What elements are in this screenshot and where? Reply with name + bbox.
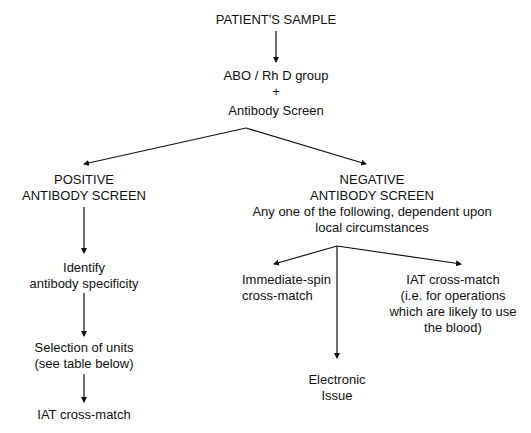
- node-text: POSITIVE: [4, 172, 164, 188]
- node-patient-sample: PATIENT'S SAMPLE: [196, 12, 356, 28]
- node-selection-of-units: Selection of units (see table below): [14, 340, 154, 372]
- node-text: +: [186, 84, 366, 100]
- node-immediate-spin-cross-match: Immediate-spin cross-match: [242, 272, 352, 304]
- node-text: (see table below): [14, 356, 154, 372]
- node-text: ANTIBODY SCREEN: [4, 188, 164, 204]
- node-text: Issue: [297, 388, 377, 404]
- node-text: which are likely to use: [378, 304, 528, 320]
- node-text: the blood): [378, 320, 528, 336]
- node-text: antibody specificity: [14, 276, 154, 292]
- node-text: cross-match: [242, 288, 352, 304]
- node-negative-antibody-screen: NEGATIVE ANTIBODY SCREEN Any one of the …: [238, 172, 506, 236]
- node-abo-rhd-antibody-screen: ABO / Rh D group + Antibody Screen: [186, 68, 366, 119]
- node-text: ABO / Rh D group: [186, 68, 366, 84]
- node-text: Identify: [14, 260, 154, 276]
- edge-negative-immediate-spin: [274, 246, 337, 264]
- node-text: IAT cross-match: [14, 407, 154, 423]
- node-text: Electronic: [297, 372, 377, 388]
- node-positive-antibody-screen: POSITIVE ANTIBODY SCREEN: [4, 172, 164, 204]
- node-text: IAT cross-match: [378, 272, 528, 288]
- node-electronic-issue: Electronic Issue: [297, 372, 377, 404]
- node-text: PATIENT'S SAMPLE: [196, 12, 356, 28]
- node-text: NEGATIVE: [238, 172, 506, 188]
- node-text: local circumstances: [238, 220, 506, 236]
- edge-grouping-positive: [84, 128, 246, 164]
- node-iat-cross-match-right: IAT cross-match (i.e. for operations whi…: [378, 272, 528, 336]
- node-text: Immediate-spin: [242, 272, 352, 288]
- node-text: (i.e. for operations: [378, 288, 528, 304]
- node-text: Any one of the following, dependent upon: [238, 204, 506, 220]
- edge-negative-iat-right: [337, 246, 461, 264]
- node-text: ANTIBODY SCREEN: [238, 188, 506, 204]
- node-iat-cross-match-left: IAT cross-match: [14, 407, 154, 423]
- node-identify-antibody-specificity: Identify antibody specificity: [14, 260, 154, 292]
- node-text: Antibody Screen: [186, 103, 366, 119]
- node-text: Selection of units: [14, 340, 154, 356]
- edge-grouping-negative: [246, 128, 366, 164]
